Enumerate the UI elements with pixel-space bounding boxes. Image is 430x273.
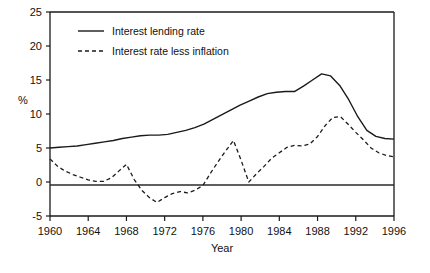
- series-interest-lending-rate: [50, 74, 394, 148]
- chart-figure: -50510152025 196019641968197219761980198…: [0, 0, 430, 273]
- x-tick-label: 1992: [344, 225, 368, 237]
- x-tick-label: 1996: [382, 225, 406, 237]
- y-tick-label: 10: [30, 108, 42, 120]
- y-tick-label: -5: [32, 210, 42, 222]
- legend-label-interest-rate-less-inflation: Interest rate less inflation: [112, 45, 229, 57]
- legend-label-interest-lending-rate: Interest lending rate: [112, 25, 205, 37]
- line-chart: -50510152025 196019641968197219761980198…: [0, 0, 430, 273]
- x-axis-title: Year: [211, 242, 234, 254]
- y-tick-label: 20: [30, 40, 42, 52]
- x-tick-group: [50, 216, 394, 221]
- series-group: [50, 74, 394, 203]
- series-interest-rate-less-inflation: [50, 117, 394, 203]
- y-axis-title: %: [18, 94, 28, 106]
- x-tick-label: 1980: [229, 225, 253, 237]
- y-tick-label: 0: [36, 176, 42, 188]
- x-tick-label: 1960: [38, 225, 62, 237]
- y-tick-label-group: -50510152025: [30, 6, 42, 222]
- x-tick-label: 1976: [191, 225, 215, 237]
- x-tick-label: 1968: [114, 225, 138, 237]
- y-tick-label: 25: [30, 6, 42, 18]
- x-tick-label-group: 1960196419681972197619801984198819921996: [38, 225, 406, 237]
- chart-legend: Interest lending rate Interest rate less…: [78, 25, 229, 57]
- y-tick-label: 5: [36, 142, 42, 154]
- x-tick-label: 1988: [305, 225, 329, 237]
- x-tick-label: 1984: [267, 225, 291, 237]
- y-tick-label: 15: [30, 74, 42, 86]
- x-tick-label: 1964: [76, 225, 100, 237]
- x-tick-label: 1972: [152, 225, 176, 237]
